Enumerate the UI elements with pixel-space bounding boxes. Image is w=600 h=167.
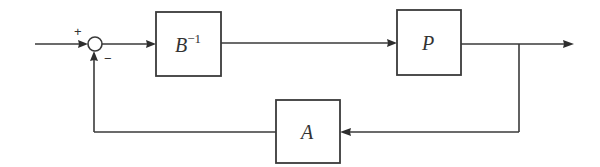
output-arrowhead-icon [563, 40, 574, 48]
summing-junction [88, 37, 102, 51]
block-a-label: A [299, 121, 314, 143]
minus-sign: − [104, 51, 112, 66]
p-input-arrowhead-icon [387, 39, 397, 47]
block-b-inverse-superscript: −1 [187, 31, 201, 46]
feedback-arrowhead-icon [90, 51, 98, 61]
block-diagram: + − B−1 P A [0, 0, 600, 167]
block-b-inverse: B−1 [156, 12, 221, 76]
block-p-label: P [421, 32, 434, 54]
plus-sign: + [74, 24, 82, 39]
binv-input-arrowhead-icon [146, 40, 156, 48]
a-input-arrowhead-icon [340, 128, 351, 136]
input-arrowhead-icon [78, 40, 88, 48]
block-a: A [276, 100, 340, 163]
block-b-inverse-label: B [175, 34, 187, 56]
block-p: P [397, 10, 461, 75]
